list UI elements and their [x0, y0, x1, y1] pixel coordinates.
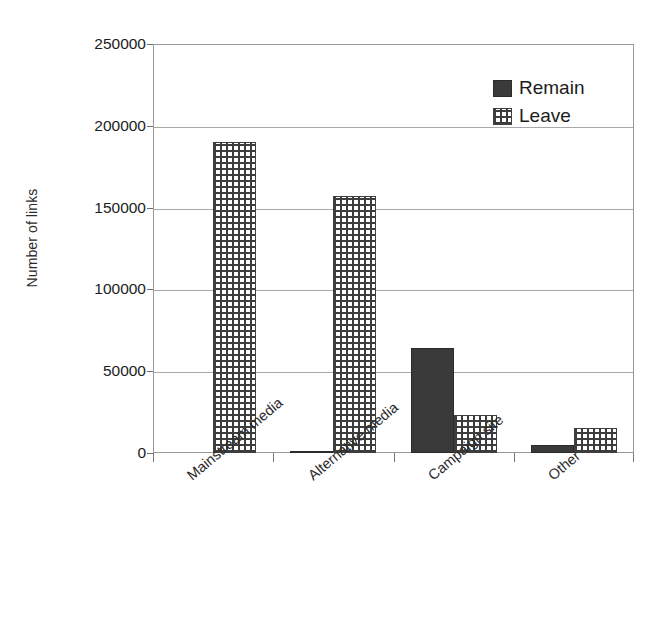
y-tick-label: 50000 [46, 362, 146, 380]
legend-item-leave[interactable]: Leave [493, 102, 633, 130]
y-tick-label: 250000 [46, 35, 146, 53]
bar-leave-0 [213, 142, 256, 453]
x-category-label-3: Other [545, 448, 583, 484]
y-axis-tick-labels: 050000100000150000200000250000 [40, 44, 146, 453]
chart-legend: RemainLeave [493, 74, 633, 130]
solid-dark-square-icon [493, 80, 512, 97]
bar-leave-3 [574, 428, 617, 453]
bar-remain-2 [411, 348, 454, 453]
y-axis-title: Number of links [24, 143, 40, 333]
legend-item-remain[interactable]: Remain [493, 74, 633, 102]
y-tick-label: 100000 [46, 280, 146, 298]
cross-hatch-square-icon [493, 108, 512, 125]
legend-label: Remain [519, 77, 584, 99]
y-tick-label: 200000 [46, 117, 146, 135]
legend-label: Leave [519, 105, 571, 127]
x-axis-category-labels: Mainstream mediaAlternative mediaCampaig… [0, 453, 665, 626]
bar-leave-1 [333, 196, 376, 453]
y-tick-label: 150000 [46, 199, 146, 217]
bar-chart-figure: Number of links 050000100000150000200000… [0, 0, 665, 626]
